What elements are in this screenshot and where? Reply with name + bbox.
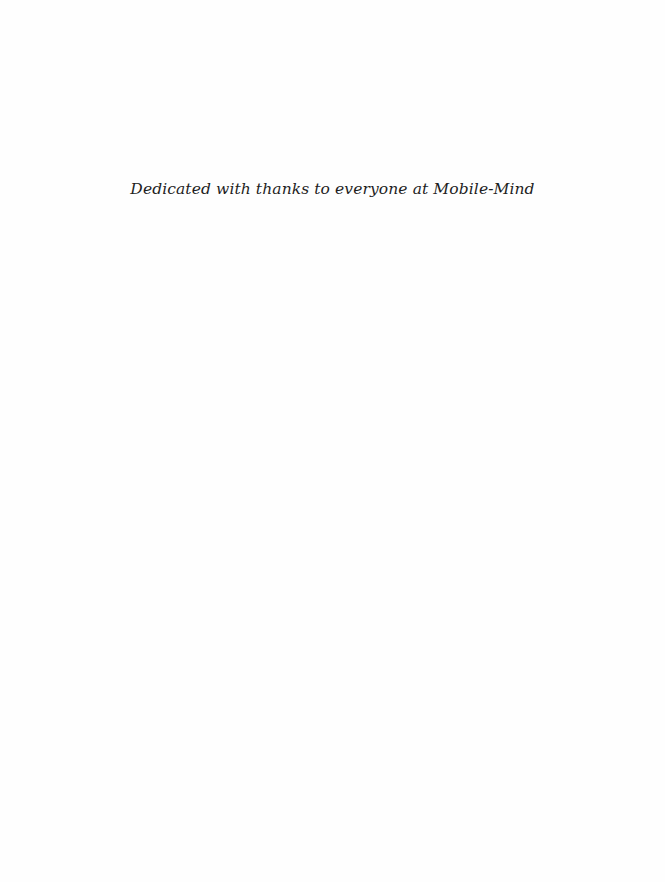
dedication-page: Dedicated with thanks to everyone at Mob… [0, 0, 665, 882]
dedication-text: Dedicated with thanks to everyone at Mob… [0, 178, 665, 200]
